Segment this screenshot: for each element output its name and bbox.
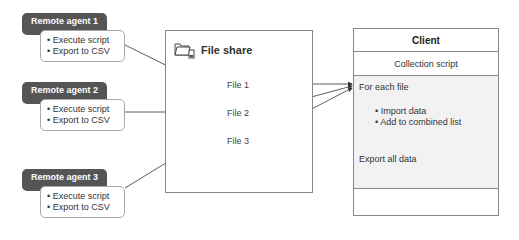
file-1: File 1 <box>227 80 249 90</box>
file-3: File 3 <box>227 136 249 146</box>
file-share-title: File share <box>201 44 252 56</box>
agent-2-step-2: • Export to CSV <box>47 115 118 126</box>
agent-3-steps: • Execute script • Export to CSV <box>40 186 125 218</box>
client-process: For each file • Import data • Add to com… <box>354 76 498 189</box>
export-step: Export all data <box>359 154 417 164</box>
agent-3-step-1: • Execute script <box>47 191 118 202</box>
client-box: Client Collection script For each file •… <box>353 28 499 216</box>
collection-script-label: Collection script <box>354 52 498 76</box>
folder-share-icon <box>174 41 196 63</box>
client-title: Client <box>354 29 498 52</box>
file-2: File 2 <box>227 108 249 118</box>
agent-1-steps: • Execute script • Export to CSV <box>40 30 125 62</box>
loop-step-2: • Add to combined list <box>375 117 493 128</box>
agent-2-steps: • Execute script • Export to CSV <box>40 99 125 131</box>
loop-steps: • Import data • Add to combined list <box>359 106 493 128</box>
agent-2-step-1: • Execute script <box>47 104 118 115</box>
loop-step-1: • Import data <box>375 106 493 117</box>
agent-3-step-2: • Export to CSV <box>47 202 118 213</box>
file-share-box: File share File 1 File 2 File 3 <box>165 30 313 193</box>
agent-1-step-2: • Export to CSV <box>47 46 118 57</box>
loop-label: For each file <box>359 82 493 92</box>
agent-1-step-1: • Execute script <box>47 35 118 46</box>
